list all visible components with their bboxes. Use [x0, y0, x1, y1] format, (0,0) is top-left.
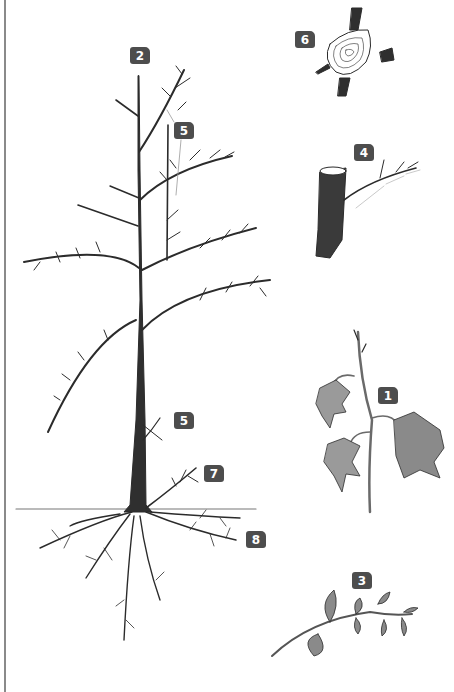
trunk [124, 76, 152, 512]
pruned-branch-illustration [316, 160, 420, 258]
label-badge-2: 2 [130, 47, 150, 64]
ivy-shoot-illustration [316, 330, 444, 512]
tree-illustration [0, 0, 454, 692]
label-badge-7: 7 [204, 465, 224, 482]
label-badge-3: 3 [352, 572, 372, 589]
cut-stump-illustration [316, 8, 394, 96]
label-badge-4: 4 [354, 144, 374, 161]
label-badge-1: 1 [378, 387, 398, 404]
leafy-twig-illustration [272, 590, 418, 656]
label-badge-8: 8 [246, 531, 266, 548]
label-badge-6: 6 [295, 31, 315, 48]
label-badge-5-lower: 5 [174, 412, 194, 429]
label-badge-5-upper: 5 [174, 122, 194, 139]
